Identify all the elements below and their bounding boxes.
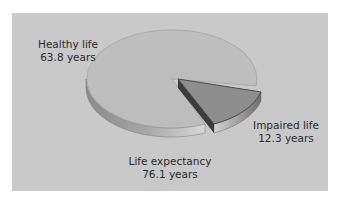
life-expectancy-name: Life expectancy: [128, 155, 212, 168]
life-expectancy-label: Life expectancy 76.1 years: [128, 155, 212, 180]
healthy-life-value: 63.8 years: [38, 51, 98, 64]
impaired-life-name: Impaired life: [250, 119, 322, 132]
impaired-life-value: 12.3 years: [250, 132, 322, 145]
healthy-life-label: Healthy life 63.8 years: [38, 38, 98, 63]
healthy-life-name: Healthy life: [38, 38, 98, 51]
impaired-life-label: Impaired life 12.3 years: [250, 119, 322, 144]
life-expectancy-value: 76.1 years: [128, 168, 212, 181]
